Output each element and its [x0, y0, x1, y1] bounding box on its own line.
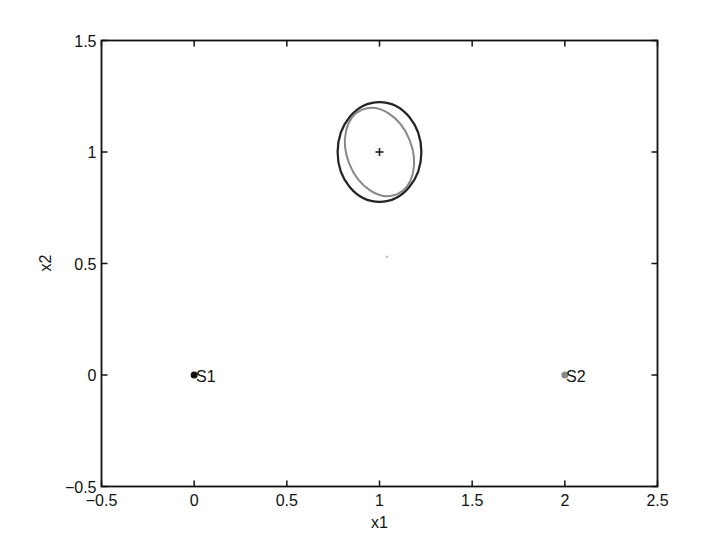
y-tick-label: 0	[88, 367, 97, 384]
chart-svg: −0.500.511.522.5−0.500.511.5 x1 x2 S1 S2	[0, 0, 703, 559]
x-tick-label: 0.5	[276, 492, 298, 509]
markers	[191, 148, 569, 379]
y-tick-label: 0.5	[74, 256, 96, 273]
y-tick-label: 1	[88, 144, 97, 161]
s1-label: S1	[196, 368, 216, 385]
x-tick-label: 1	[375, 492, 384, 509]
x-tick-label: 2.5	[646, 492, 668, 509]
x-tick-label: 0	[190, 492, 199, 509]
x-axis-label: x1	[371, 514, 388, 531]
y-tick-label: −0.5	[65, 479, 97, 496]
axes-box	[102, 41, 658, 487]
stray-marker	[386, 256, 389, 259]
y-tick-label: 1.5	[74, 33, 96, 50]
y-axis-label: x2	[37, 254, 54, 271]
x-tick-label: 2	[560, 492, 569, 509]
s2-label: S2	[566, 368, 586, 385]
x-tick-label: 1.5	[461, 492, 483, 509]
